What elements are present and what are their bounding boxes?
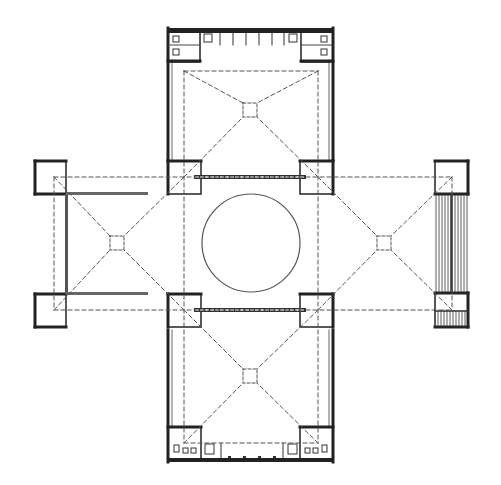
north-boss [243,103,257,117]
bosses [110,103,391,383]
south-boss [243,369,257,383]
vault-diagonals [54,71,452,443]
west-boss [110,236,124,250]
north-arm [167,28,334,160]
central-circle [202,194,300,292]
west-arm [35,161,148,327]
south-arm [167,330,334,462]
dashed-axes [54,71,452,443]
east-boss [377,236,391,250]
crossing-piers [168,161,333,327]
floor-plan [0,0,501,485]
